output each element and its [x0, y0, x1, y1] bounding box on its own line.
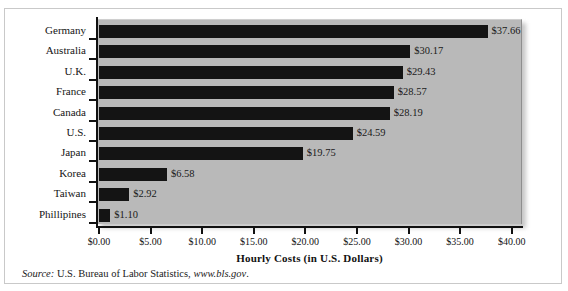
- y-axis-tick: [89, 160, 97, 162]
- bar-value-label: $28.57: [398, 84, 427, 100]
- x-axis-title: Hourly Costs (in U.S. Dollars): [97, 252, 522, 264]
- y-axis-tick: [89, 38, 97, 40]
- y-axis-label-us: U.S.: [0, 126, 86, 138]
- y-axis-line: [96, 17, 98, 228]
- y-axis-tick: [89, 222, 97, 224]
- bar-value-label: $19.75: [307, 145, 336, 161]
- chart-figure: $37.66$30.17$29.43$28.57$28.19$24.59$19.…: [0, 0, 568, 291]
- y-axis-label-france: France: [0, 85, 86, 97]
- bar-rect: [99, 147, 303, 160]
- x-axis-tick-label: $15.00: [240, 236, 268, 247]
- bar-rect: [99, 188, 129, 201]
- source-text: U.S. Bureau of Labor Statistics,: [54, 268, 193, 279]
- x-axis-tick-label: $30.00: [395, 236, 423, 247]
- x-axis-tick: [356, 228, 358, 234]
- bar-rect: [99, 25, 488, 38]
- x-axis-tick-label: $35.00: [446, 236, 474, 247]
- y-axis-tick: [89, 140, 97, 142]
- bar-value-label: $37.66: [492, 23, 521, 39]
- x-axis-tick: [408, 228, 410, 234]
- x-axis-tick: [459, 228, 461, 234]
- y-axis-label-uk: U.K.: [0, 65, 86, 77]
- bar-rect: [99, 168, 167, 181]
- bar-value-label: $24.59: [357, 125, 386, 141]
- y-axis-label-korea: Korea: [0, 167, 86, 179]
- x-axis-tick: [253, 228, 255, 234]
- x-axis-tick: [201, 228, 203, 234]
- y-axis-tick: [89, 79, 97, 81]
- y-axis-label-germany: Germany: [0, 24, 86, 36]
- x-axis-tick-label: $5.00: [139, 236, 162, 247]
- y-axis-label-taiwan: Taiwan: [0, 187, 86, 199]
- x-axis-tick-label: $0.00: [88, 236, 111, 247]
- x-axis-tick-label: $40.00: [498, 236, 526, 247]
- bar-value-label: $28.19: [394, 105, 423, 121]
- bar-rect: [99, 107, 390, 120]
- x-axis-tick: [304, 228, 306, 234]
- bar-value-label: $6.58: [171, 166, 195, 182]
- bar-rect: [99, 66, 403, 79]
- y-axis-tick: [89, 99, 97, 101]
- x-axis-tick: [511, 228, 513, 234]
- source-keyword: Source:: [22, 268, 54, 279]
- y-axis-tick: [89, 58, 97, 60]
- y-axis-tick: [89, 201, 97, 203]
- bar-value-label: $2.92: [133, 186, 157, 202]
- x-axis-tick-label: $10.00: [188, 236, 216, 247]
- x-axis-tick-label: $20.00: [292, 236, 320, 247]
- y-axis-tick: [89, 120, 97, 122]
- bar-value-label: $1.10: [114, 207, 138, 223]
- bar-rect: [99, 86, 394, 99]
- y-axis-tick: [89, 181, 97, 183]
- y-axis-label-japan: Japan: [0, 146, 86, 158]
- x-axis-tick: [98, 228, 100, 234]
- bar-rect: [99, 45, 410, 58]
- bar-rect: [99, 209, 110, 222]
- y-axis-label-phillipines: Phillipines: [0, 208, 86, 220]
- y-axis-tick-labels: GermanyAustraliaU.K.FranceCanadaU.S.Japa…: [0, 0, 86, 291]
- bar-value-label: $30.17: [414, 43, 443, 59]
- y-axis-label-australia: Australia: [0, 44, 86, 56]
- source-note: Source: U.S. Bureau of Labor Statistics,…: [22, 268, 249, 279]
- bar-value-label: $29.43: [407, 64, 436, 80]
- x-axis-tick-label: $25.00: [343, 236, 371, 247]
- x-axis-tick: [150, 228, 152, 234]
- source-url: www.bls.gov: [193, 268, 246, 279]
- source-period: .: [246, 268, 249, 279]
- bar-rect: [99, 127, 353, 140]
- y-axis-label-canada: Canada: [0, 106, 86, 118]
